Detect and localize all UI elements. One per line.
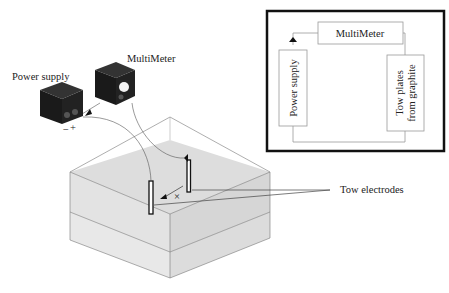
circuit-schematic: MultiMeter Power supply Tow plates from … <box>267 11 444 151</box>
power-supply-label: Power supply <box>12 71 70 82</box>
power-supply-cube <box>40 82 83 124</box>
schematic-multimeter-label: MultiMeter <box>336 28 385 39</box>
experiment-diagram: × Tow electrodes + − Power supply MultiM… <box>0 0 449 293</box>
electrode-right <box>187 160 191 192</box>
electrode-left <box>149 181 153 214</box>
schematic-power-label: Power supply <box>288 59 299 117</box>
schematic-tow-label-1: Tow plates <box>394 70 405 116</box>
tow-electrodes-label: Tow electrodes <box>340 184 404 195</box>
plus-sign: + <box>70 122 76 133</box>
x-mark: × <box>174 191 180 202</box>
minus-sign: − <box>63 124 69 135</box>
multimeter-cube <box>95 62 135 105</box>
schematic-tow-label-2: from graphite <box>406 64 417 122</box>
multimeter-label: MultiMeter <box>127 53 176 64</box>
